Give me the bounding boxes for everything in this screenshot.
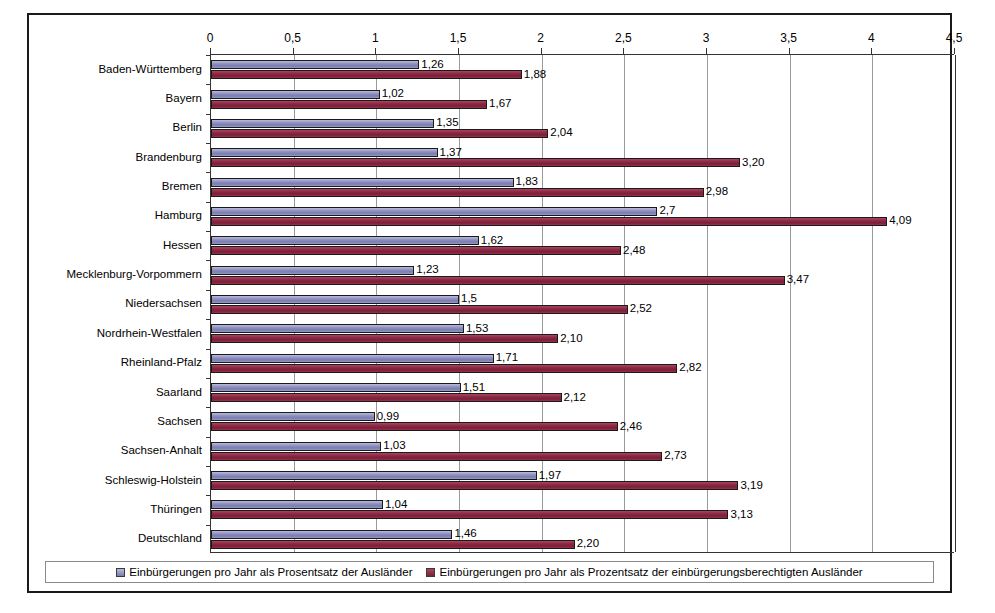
category-label: Rheinland-Pfalz [121, 357, 202, 369]
category-label: Sachsen-Anhalt [121, 446, 202, 458]
x-axis-tick-label: 1 [372, 31, 379, 45]
y-axis-tick-mark [206, 437, 211, 438]
x-axis-tick-label: 4 [868, 31, 875, 45]
category-label: Brandenburg [136, 152, 203, 164]
bar-value-label: 1,88 [524, 69, 546, 81]
bar-value-label: 1,67 [489, 98, 511, 110]
x-axis-tick-label: 0,5 [284, 31, 301, 45]
chart-row: Saarland1,512,12 [211, 378, 954, 407]
chart-legend: Einbürgerungen pro Jahr als Prosentsatz … [45, 561, 934, 583]
bar-value-label: 1,02 [382, 88, 404, 100]
x-axis-tick-mark [458, 48, 459, 54]
category-label: Mecklenburg-Vorpommern [66, 269, 202, 281]
bar-series-2: 3,19 [211, 481, 738, 490]
y-axis-tick-mark [206, 231, 211, 232]
category-label: Berlin [173, 123, 202, 135]
y-axis-tick-mark [206, 495, 211, 496]
bar-series-1: 1,62 [211, 236, 479, 245]
bar-value-label: 3,47 [787, 274, 809, 286]
plot-area: Baden-Württemberg1,261,88Bayern1,021,67B… [210, 54, 954, 553]
chart-row: Hamburg2,74,09 [211, 202, 954, 231]
bar-series-2: 2,10 [211, 334, 558, 343]
bar-value-label: 3,13 [730, 509, 752, 521]
bar-series-2: 4,09 [211, 217, 887, 226]
category-label: Bayern [166, 93, 202, 105]
bar-value-label: 1,83 [516, 176, 538, 188]
bar-value-label: 1,26 [421, 59, 443, 71]
bar-value-label: 1,53 [466, 323, 488, 335]
chart-row: Nordrhein-Westfalen1,532,10 [211, 319, 954, 348]
bar-series-1: 1,03 [211, 442, 381, 451]
x-axis-tick-mark [871, 48, 872, 54]
x-axis-tick-label: 2 [537, 31, 544, 45]
x-axis-tick-mark [706, 48, 707, 54]
bar-value-label: 2,20 [577, 539, 599, 551]
legend-label: Einbürgerungen pro Jahr als Prozentsatz … [439, 566, 862, 578]
chart-row: Sachsen0,992,46 [211, 407, 954, 436]
bar-value-label: 1,03 [383, 441, 405, 453]
category-label: Deutschland [138, 534, 202, 546]
category-label: Baden-Württemberg [98, 64, 202, 76]
y-axis-tick-mark [206, 84, 211, 85]
bar-value-label: 2,82 [679, 362, 701, 374]
bar-series-2: 2,73 [211, 452, 662, 461]
y-axis-tick-mark [206, 349, 211, 350]
bar-value-label: 1,35 [436, 118, 458, 130]
chart-row: Baden-Württemberg1,261,88 [211, 55, 954, 84]
x-axis-tick-label: 0 [207, 31, 214, 45]
bar-series-1: 2,7 [211, 207, 657, 216]
bar-value-label: 3,20 [742, 157, 764, 169]
bar-series-2: 3,47 [211, 276, 785, 285]
bar-value-label: 2,04 [550, 128, 572, 140]
x-axis-tick-label: 3,5 [780, 31, 797, 45]
x-axis-tick-mark [954, 48, 955, 54]
bar-value-label: 1,23 [416, 264, 438, 276]
x-axis-tick-mark [541, 48, 542, 54]
bar-series-1: 1,5 [211, 295, 459, 304]
bar-value-label: 1,62 [481, 235, 503, 247]
category-label: Saarland [156, 387, 202, 399]
bar-series-2: 3,13 [211, 510, 728, 519]
y-axis-tick-mark [206, 466, 211, 467]
chart-row: Deutschland1,462,20 [211, 525, 954, 554]
bar-value-label: 2,48 [623, 245, 645, 257]
chart-row: Schleswig-Holstein1,973,19 [211, 466, 954, 495]
gridline [955, 55, 956, 552]
bar-series-1: 1,46 [211, 530, 452, 539]
category-label: Niedersachsen [125, 299, 202, 311]
bar-series-2: 2,04 [211, 129, 548, 138]
bar-series-2: 1,67 [211, 100, 487, 109]
chart-row: Niedersachsen1,52,52 [211, 290, 954, 319]
y-axis-tick-mark [206, 143, 211, 144]
bar-value-label: 2,7 [659, 206, 675, 218]
y-axis-tick-mark [206, 378, 211, 379]
bar-value-label: 2,52 [630, 304, 652, 316]
category-label: Thüringen [150, 504, 202, 516]
y-axis-tick-mark [206, 525, 211, 526]
chart-row: Bremen1,832,98 [211, 172, 954, 201]
x-axis-tick-mark [210, 48, 211, 54]
chart-row: Berlin1,352,04 [211, 114, 954, 143]
chart-row: Mecklenburg-Vorpommern1,233,47 [211, 260, 954, 289]
chart-row: Hessen1,622,48 [211, 231, 954, 260]
category-label: Schleswig-Holstein [105, 475, 202, 487]
y-axis-tick-mark [206, 55, 211, 56]
bar-value-label: 0,99 [377, 411, 399, 423]
legend-item-2[interactable]: Einbürgerungen pro Jahr als Prozentsatz … [426, 566, 862, 578]
bar-series-1: 1,97 [211, 471, 537, 480]
y-axis-tick-mark [206, 202, 211, 203]
category-label: Hamburg [155, 211, 202, 223]
bar-value-label: 1,51 [463, 382, 485, 394]
legend-item-1[interactable]: Einbürgerungen pro Jahr als Prosentsatz … [116, 566, 412, 578]
chart-row: Thüringen1,043,13 [211, 495, 954, 524]
bar-series-1: 1,71 [211, 354, 494, 363]
bar-value-label: 2,10 [560, 333, 582, 345]
bar-series-2: 2,20 [211, 540, 575, 549]
bar-value-label: 1,46 [454, 529, 476, 541]
x-axis-tick-label: 4,5 [946, 31, 963, 45]
y-axis-tick-mark [206, 260, 211, 261]
x-axis-tick-mark [623, 48, 624, 54]
y-axis-tick-mark [206, 407, 211, 408]
chart-row: Sachsen-Anhalt1,032,73 [211, 437, 954, 466]
category-label: Hessen [163, 240, 202, 252]
